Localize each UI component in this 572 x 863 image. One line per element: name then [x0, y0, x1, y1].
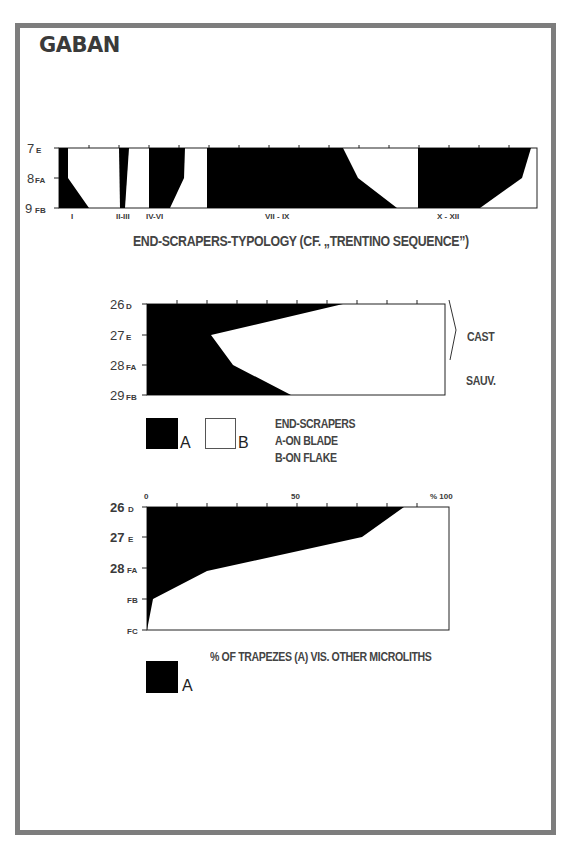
legend-a-swatch [146, 418, 178, 449]
group-label-iv-vi: IV-VI [146, 212, 163, 221]
bottom-chart: 0 50 % 100 26 D 27 E 28 FA FB FC [110, 492, 453, 636]
legend-trapezes-swatch [146, 661, 178, 693]
legend-b-swatch [205, 418, 236, 449]
bot-y-sub-27: E [128, 535, 134, 544]
bot-y-sub-28: FA [127, 566, 137, 575]
top-y-label-8: 8 [27, 171, 34, 186]
bot-y-label-27: 27 [110, 530, 124, 545]
bottom-chart-caption: % OF TRAPEZES (A) VIS. OTHER MICROLITHS [210, 650, 432, 664]
chart-svg: 7 E 8 FA 9 FB I II-III IV-VI VII - IX X … [0, 0, 572, 863]
group-label-vii-ix: VII - IX [265, 212, 290, 221]
legend-line-3: B-ON FLAKE [275, 451, 337, 465]
top-y-sub-8: FA [35, 176, 45, 185]
cast-label: CAST [467, 330, 494, 344]
middle-chart: 26 D 27 E 28 FA 29 FB [110, 297, 456, 403]
sauv-label: SAUV. [466, 374, 496, 388]
legend-line-2: A-ON BLADE [275, 434, 338, 448]
group-label-ii-iii: II-III [116, 212, 130, 221]
cast-bracket [449, 300, 456, 360]
mid-y-sub-27: E [126, 333, 132, 342]
legend-trapezes-letter: A [182, 677, 193, 695]
mid-y-label-29: 29 [110, 388, 124, 403]
bot-y-sub-fc: FC [127, 627, 138, 636]
legend-line-1: END-SCRAPERS [275, 417, 355, 431]
top-y-sub-9: FB [35, 206, 46, 215]
bot-y-label-26: 26 [110, 500, 124, 515]
top-chart-title: END-SCRAPERS-TYPOLOGY (CF. „TRENTINO SEQ… [133, 233, 469, 249]
group-label-x-xii: X - XII [437, 212, 459, 221]
mid-y-label-26: 26 [110, 297, 124, 312]
x-tick-0: 0 [144, 492, 149, 501]
legend-a-letter: A [180, 434, 191, 452]
legend-b-letter: B [238, 434, 249, 452]
top-y-sub-7: E [36, 146, 42, 155]
mid-y-sub-28: FA [126, 363, 136, 372]
x-tick-100: % 100 [430, 492, 453, 501]
mid-y-label-28: 28 [110, 358, 124, 373]
mid-y-sub-26: D [126, 302, 132, 311]
top-y-label-7: 7 [27, 141, 34, 156]
mid-y-sub-29: FB [126, 393, 137, 402]
top-y-label-9: 9 [25, 201, 32, 216]
bot-y-sub-fb: FB [127, 596, 138, 605]
x-tick-50: 50 [291, 492, 300, 501]
group-label-i: I [71, 212, 73, 221]
bot-y-label-28: 28 [110, 561, 124, 576]
mid-y-label-27: 27 [110, 328, 124, 343]
bot-y-sub-26: D [128, 505, 134, 514]
top-chart: 7 E 8 FA 9 FB I II-III IV-VI VII - IX X … [25, 141, 537, 221]
